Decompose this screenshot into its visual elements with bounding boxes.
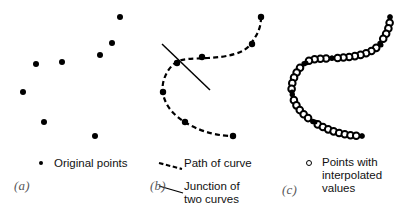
curve-control-point xyxy=(160,89,166,95)
panel-tag-c: (c) xyxy=(282,182,297,198)
original-point xyxy=(20,89,26,95)
panel-b: Path of curve Junction of two curves (b) xyxy=(140,0,270,214)
curve-control-point xyxy=(258,14,264,20)
curve-control-point xyxy=(174,60,180,66)
original-point-on-curve xyxy=(290,90,295,95)
panel-tag-b: (b) xyxy=(150,178,166,194)
original-point xyxy=(33,61,39,67)
original-point-on-curve xyxy=(379,43,384,48)
legend-row-original-points: Original points xyxy=(28,157,128,170)
legend-label-junction: Junction of two curves xyxy=(184,180,240,206)
panel-a: Original points (a) xyxy=(0,0,140,214)
data-point-interpolated xyxy=(334,55,341,62)
original-point xyxy=(117,14,123,20)
curve-control-point xyxy=(182,119,188,125)
figure-canvas: Original points (a) Path of curve Juncti… xyxy=(0,0,410,214)
legend-label-interpolated-points: Points with interpolated values xyxy=(322,156,382,196)
curve-path-dashed xyxy=(163,17,261,136)
original-point-on-curve xyxy=(388,15,393,20)
dashed-line-icon xyxy=(158,157,184,171)
original-point-on-curve xyxy=(304,61,309,66)
legend-label-original-points: Original points xyxy=(54,157,128,170)
panel-tag-a: (a) xyxy=(14,178,30,194)
filled-dot-icon xyxy=(28,157,54,165)
legend-row-junction: Junction of two curves xyxy=(158,180,240,206)
original-point xyxy=(97,52,103,58)
curve-control-point xyxy=(230,133,236,139)
original-point xyxy=(41,119,47,125)
legend-row-interpolated-points: Points with interpolated values xyxy=(296,156,382,196)
original-point xyxy=(59,59,65,65)
panel-c: Points with interpolated values (c) xyxy=(270,0,410,214)
original-point-on-curve xyxy=(360,134,365,139)
legend-row-path-of-curve: Path of curve xyxy=(158,157,252,171)
curve-control-point xyxy=(249,41,255,47)
original-point xyxy=(109,40,115,46)
legend-label-path-of-curve: Path of curve xyxy=(184,157,252,170)
junction-line xyxy=(162,44,210,90)
original-point-on-curve xyxy=(330,56,335,61)
original-point-on-curve xyxy=(313,120,318,125)
data-point-interpolated xyxy=(353,133,360,140)
curve-control-point xyxy=(199,54,205,60)
original-point xyxy=(92,133,98,139)
open-ring-icon xyxy=(296,156,322,166)
